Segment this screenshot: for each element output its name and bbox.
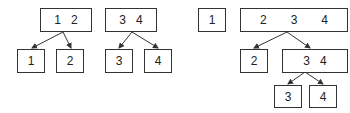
edge-right-root-to-2 [254, 32, 287, 48]
middle-root-node: 3 4 [105, 8, 157, 32]
key: 4 [136, 13, 143, 27]
middle-child-node-3: 3 [105, 49, 133, 73]
key: 4 [321, 13, 328, 27]
left-child-node-2: 2 [56, 49, 84, 73]
key: 4 [320, 54, 327, 68]
key: 3 [285, 90, 292, 104]
right-single-node-1: 1 [198, 8, 226, 32]
key: 1 [209, 13, 216, 27]
edge-left-root-to-2 [63, 32, 71, 48]
key: 1 [28, 54, 35, 68]
middle-child-node-4: 4 [144, 49, 172, 73]
key: 2 [67, 54, 74, 68]
right-grandchild-node-3: 3 [274, 85, 302, 108]
key: 2 [260, 13, 267, 27]
edge-middle-root-to-3 [119, 32, 132, 48]
right-root-node: 2 3 4 [240, 8, 348, 32]
left-child-node-1: 1 [17, 49, 45, 73]
edge-right-34-to-4 [305, 72, 323, 84]
key: 4 [320, 90, 327, 104]
edge-left-root-to-1 [32, 32, 63, 48]
right-child-node-2: 2 [240, 49, 268, 73]
key: 3 [116, 54, 123, 68]
edge-right-root-to-34 [287, 32, 310, 48]
key: 1 [54, 13, 61, 27]
right-grandchild-node-4: 4 [309, 85, 337, 108]
key: 3 [303, 54, 310, 68]
edge-middle-root-to-4 [132, 32, 158, 48]
key: 2 [251, 54, 258, 68]
key: 4 [155, 54, 162, 68]
key: 3 [119, 13, 126, 27]
right-child-node-34: 3 4 [282, 49, 348, 73]
key: 3 [291, 13, 298, 27]
edge-right-34-to-3 [288, 72, 305, 84]
left-root-node: 1 2 [40, 8, 92, 32]
key: 2 [71, 13, 78, 27]
